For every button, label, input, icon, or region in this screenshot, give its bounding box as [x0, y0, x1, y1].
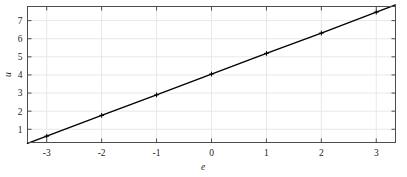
y-tick-label: 2 [18, 107, 23, 117]
y-tick-label: 1 [18, 125, 23, 135]
y-tick-label: 5 [18, 52, 23, 62]
chart-figure: 1234567 -3-2-10123 e u [0, 0, 407, 177]
x-tick-label: 3 [374, 148, 379, 158]
y-tick-label: 4 [18, 70, 23, 80]
x-tick-label: 2 [319, 148, 324, 158]
y-tick-label: 3 [18, 88, 23, 98]
x-axis-title: e [201, 162, 205, 172]
line-chart: 1234567 -3-2-10123 e u [0, 0, 407, 177]
y-tick-label: 6 [18, 34, 23, 44]
x-tick-label: -1 [153, 148, 161, 158]
y-axis-title: u [3, 72, 13, 77]
x-tick-label: 0 [209, 148, 214, 158]
x-tick-label: 1 [264, 148, 269, 158]
x-tick-label: -3 [43, 148, 51, 158]
x-tick-label: -2 [98, 148, 106, 158]
y-tick-label: 7 [18, 16, 23, 26]
